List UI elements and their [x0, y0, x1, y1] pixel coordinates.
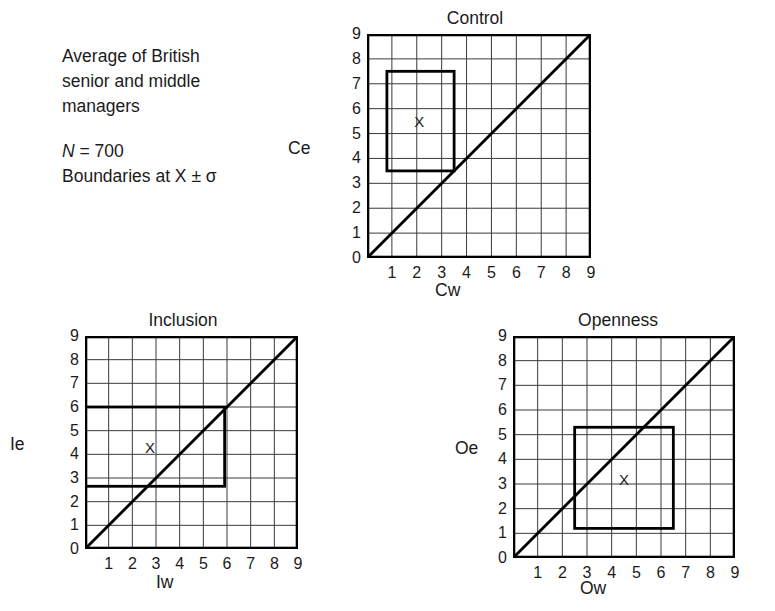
chart-inclusion: Inclusion Ie Iw 0123456789123456789X [48, 310, 338, 600]
diagonal-reference-line [367, 34, 591, 258]
ytick-label: 6 [61, 399, 79, 415]
ytick-label: 0 [343, 250, 361, 266]
caption-description: Average of British senior and middle man… [62, 44, 200, 119]
ytick-label: 8 [489, 353, 507, 369]
xtick-label: 4 [458, 265, 476, 281]
chart-control-xlabel: Cw [435, 280, 460, 301]
ytick-label: 4 [489, 451, 507, 467]
chart-inclusion-ylabel: Ie [10, 434, 25, 455]
boundaries-note: Boundaries at X ± σ [62, 166, 217, 186]
ytick-label: 7 [489, 377, 507, 393]
ytick-label: 4 [61, 446, 79, 462]
xtick-label: 6 [218, 556, 236, 572]
chart-openness-xlabel: Ow [580, 578, 606, 599]
chart-openness-title: Openness [468, 310, 768, 331]
ytick-label: 2 [489, 501, 507, 517]
chart-control: Control Ce Cw 0123456789123456789X [330, 8, 620, 298]
chart-control-ylabel: Ce [288, 138, 310, 159]
xtick-label: 3 [433, 265, 451, 281]
ytick-label: 2 [61, 494, 79, 510]
chart-control-svg [367, 34, 591, 258]
caption-statistics: N = 700 Boundaries at X ± σ [62, 139, 217, 189]
xtick-label: 9 [726, 565, 744, 581]
ytick-label: 6 [343, 101, 361, 117]
xtick-label: 6 [507, 265, 525, 281]
ytick-label: 9 [61, 328, 79, 344]
ytick-label: 5 [61, 423, 79, 439]
xtick-label: 5 [627, 565, 645, 581]
xtick-label: 5 [194, 556, 212, 572]
ytick-label: 0 [61, 541, 79, 557]
xtick-label: 1 [383, 265, 401, 281]
boundary-box [387, 71, 454, 171]
xtick-label: 8 [701, 565, 719, 581]
xtick-label: 5 [482, 265, 500, 281]
chart-inclusion-svg [85, 336, 298, 549]
xtick-label: 7 [677, 565, 695, 581]
boundary-box [575, 427, 674, 528]
caption-line-2: senior and middle [62, 71, 200, 91]
ytick-label: 8 [343, 51, 361, 67]
ytick-label: 4 [343, 150, 361, 166]
ytick-label: 5 [489, 427, 507, 443]
xtick-label: 8 [265, 556, 283, 572]
ytick-label: 8 [61, 352, 79, 368]
sample-size-symbol: N [62, 141, 75, 161]
ytick-label: 9 [489, 328, 507, 344]
ytick-label: 7 [343, 76, 361, 92]
ytick-label: 7 [61, 375, 79, 391]
diagonal-reference-line [85, 336, 298, 549]
caption-line-1: Average of British [62, 46, 200, 66]
xtick-label: 7 [242, 556, 260, 572]
ytick-label: 0 [489, 550, 507, 566]
xtick-label: 4 [171, 556, 189, 572]
ytick-label: 3 [61, 470, 79, 486]
chart-openness-ylabel: Oe [455, 438, 478, 459]
xtick-label: 2 [408, 265, 426, 281]
xtick-label: 3 [578, 565, 596, 581]
xtick-label: 4 [603, 565, 621, 581]
ytick-label: 1 [489, 525, 507, 541]
ytick-label: 6 [489, 402, 507, 418]
xtick-label: 9 [289, 556, 307, 572]
caption-line-3: managers [62, 96, 140, 116]
chart-control-title: Control [330, 8, 620, 29]
chart-openness: Openness Oe Ow 0123456789123456789X [468, 310, 768, 600]
xtick-label: 3 [147, 556, 165, 572]
chart-inclusion-title: Inclusion [38, 310, 328, 331]
xtick-label: 7 [532, 265, 550, 281]
chart-control-plot [367, 34, 591, 258]
chart-openness-plot [513, 336, 735, 558]
ytick-label: 2 [343, 200, 361, 216]
xtick-label: 8 [557, 265, 575, 281]
ytick-label: 3 [343, 175, 361, 191]
xtick-label: 2 [123, 556, 141, 572]
chart-inclusion-xlabel: Iw [156, 572, 174, 593]
ytick-label: 9 [343, 26, 361, 42]
xtick-label: 1 [100, 556, 118, 572]
ytick-label: 1 [61, 517, 79, 533]
sample-size-value: = 700 [80, 141, 124, 161]
diagonal-reference-line [513, 336, 735, 558]
xtick-label: 2 [553, 565, 571, 581]
ytick-label: 5 [343, 126, 361, 142]
chart-inclusion-plot [85, 336, 298, 549]
xtick-label: 9 [582, 265, 600, 281]
ytick-label: 3 [489, 476, 507, 492]
xtick-label: 6 [652, 565, 670, 581]
xtick-label: 1 [529, 565, 547, 581]
chart-openness-svg [513, 336, 735, 558]
ytick-label: 1 [343, 225, 361, 241]
